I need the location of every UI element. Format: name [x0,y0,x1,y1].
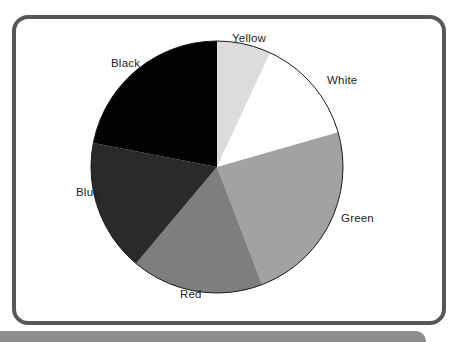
pie-label-blue: Blue [76,186,100,198]
pie-chart-figure: Yellow White Green Red Blue Black [0,0,467,342]
pie-label-white: White [327,74,357,86]
pie-label-red: Red [180,288,202,300]
device-base-bar [0,331,426,342]
pie-label-green: Green [341,212,374,224]
pie-slices-group [91,41,343,293]
pie-label-yellow: Yellow [232,32,266,44]
pie-chart-svg [0,0,467,342]
pie-label-black: Black [111,57,140,69]
